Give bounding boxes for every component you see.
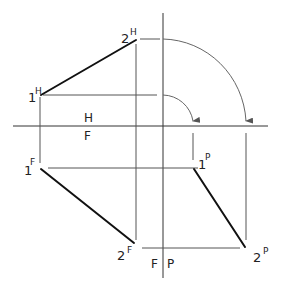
label-1F: 1 F [24,157,35,178]
plane-label-F-below: F [84,129,91,143]
svg-text:2: 2 [253,250,261,265]
svg-text:P: P [205,152,211,162]
line-12-top-view [41,40,136,95]
svg-text:2: 2 [121,31,129,46]
line-12-front-view [41,169,134,243]
label-2F: 2 F [117,245,132,263]
rotation-arc-large [163,39,246,121]
rotation-arc-small [163,95,193,121]
label-2H: 2 H [121,27,137,46]
label-2P: 2 P [253,246,269,265]
svg-text:P: P [263,246,269,256]
projection-diagram: 1 H 2 H 1 F 2 F 1 P 2 P H F F P [0,0,284,287]
plane-label-F-left: F [151,257,158,271]
label-1P: 1 P [198,152,211,172]
svg-text:F: F [127,245,132,255]
svg-text:H: H [130,27,137,37]
svg-text:2: 2 [117,248,125,263]
svg-text:H: H [35,86,42,96]
plane-label-H: H [84,111,93,125]
plane-label-P: P [167,257,174,271]
svg-text:F: F [30,157,35,167]
line-12-profile-view [194,169,245,247]
